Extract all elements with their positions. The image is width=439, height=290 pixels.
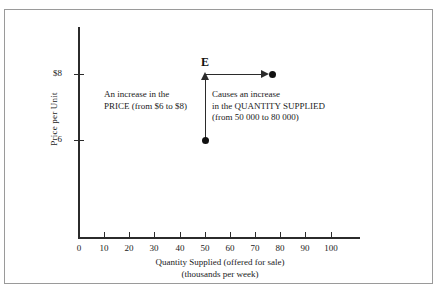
- figure-page: $8 6 Price per Unit 0 10 20 30 40 50 60 …: [0, 0, 439, 290]
- x-tick-mark-100: [331, 232, 332, 238]
- price-increase-arrow-shaft: [205, 78, 207, 138]
- plot-area: $8 6 Price per Unit 0 10 20 30 40 50 60 …: [0, 0, 439, 290]
- y-axis-line: [78, 27, 80, 239]
- x-axis-title-line-2: (thousands per week): [60, 268, 380, 280]
- y-axis-title: Price per Unit: [49, 92, 59, 145]
- annotation-quantity-increase-line-3: (from 50 000 to 80 000): [212, 112, 325, 124]
- annotation-quantity-increase-line-1: Causes an increase: [212, 89, 325, 101]
- x-tick-label-100: 100: [316, 243, 346, 253]
- annotation-quantity-increase-line-2: in the QUANTITY SUPPLIED: [212, 101, 325, 113]
- quantity-increase-arrow-head: [261, 70, 269, 78]
- point-label-e: E: [201, 56, 209, 68]
- data-point-new: [269, 71, 276, 78]
- y-tick-mark-8: [74, 74, 84, 75]
- y-axis-title-wrap: Price per Unit: [47, 78, 61, 160]
- x-tick-mark-30: [154, 232, 155, 238]
- x-tick-mark-40: [180, 232, 181, 238]
- y-tick-label-8: $8: [26, 69, 62, 78]
- annotation-price-increase: An increase in the PRICE (from $6 to $8): [104, 89, 187, 112]
- x-tick-mark-20: [129, 232, 130, 238]
- x-tick-mark-50: [205, 232, 206, 238]
- x-tick-mark-80: [280, 232, 281, 238]
- data-point-initial: [202, 137, 209, 144]
- x-axis-title-line-1: Quantity Supplied (offered for sale): [60, 256, 380, 268]
- annotation-price-increase-line-1: An increase in the: [104, 89, 187, 101]
- x-tick-mark-0: [79, 232, 80, 238]
- quantity-increase-arrow-shaft: [205, 74, 265, 76]
- x-axis-title: Quantity Supplied (offered for sale) (th…: [60, 256, 380, 280]
- annotation-quantity-increase: Causes an increase in the QUANTITY SUPPL…: [212, 89, 325, 124]
- x-tick-mark-10: [104, 232, 105, 238]
- x-tick-mark-60: [230, 232, 231, 238]
- x-axis-line: [78, 237, 360, 239]
- y-tick-mark-6: [74, 140, 84, 141]
- annotation-price-increase-line-2: PRICE (from $6 to $8): [104, 101, 187, 113]
- x-tick-mark-70: [255, 232, 256, 238]
- x-tick-mark-90: [305, 232, 306, 238]
